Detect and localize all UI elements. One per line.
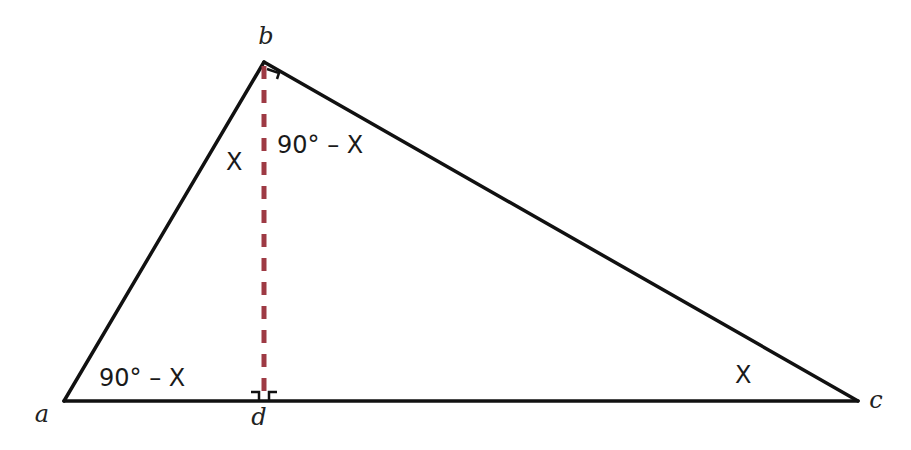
right-angle-marker-d-left xyxy=(251,392,259,400)
angle-label-at-a: 90° – X xyxy=(99,364,185,392)
vertex-label-a: a xyxy=(35,400,49,428)
angle-label-at-b-right: 90° – X xyxy=(277,131,363,159)
angle-label-at-b-left: X xyxy=(226,148,242,176)
vertex-label-d: d xyxy=(251,403,266,431)
right-angle-marker-d-right xyxy=(269,392,277,400)
vertex-label-c: c xyxy=(869,386,882,414)
triangle-diagram: b a d c 90° – X X 90° – X X xyxy=(0,0,911,450)
edge-ab xyxy=(64,62,264,401)
edge-bc xyxy=(264,62,858,401)
angle-label-at-c: X xyxy=(735,361,751,389)
vertex-label-b: b xyxy=(258,22,273,50)
